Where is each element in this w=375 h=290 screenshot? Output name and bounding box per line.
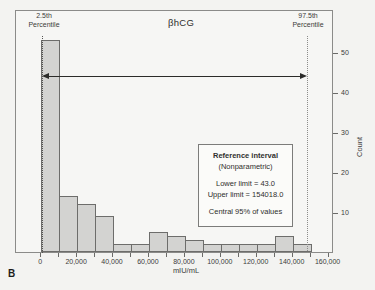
y-tick-label: 20 <box>341 169 363 176</box>
y-axis-label: Count <box>355 137 364 157</box>
x-tick <box>40 253 41 257</box>
upper-percentile-label-line1: 97.5th <box>276 11 340 20</box>
x-tick <box>220 253 221 257</box>
x-tick <box>256 253 257 257</box>
histogram-bar <box>95 216 114 252</box>
y-tick <box>333 93 338 94</box>
histogram-bar <box>59 196 78 252</box>
figure-label: B <box>8 268 15 279</box>
arrow-shaft <box>47 76 302 77</box>
histogram-bar <box>167 236 186 252</box>
histogram-bar <box>203 244 222 252</box>
x-tick <box>112 253 113 257</box>
x-minor-tick <box>274 253 275 257</box>
x-tick <box>328 253 329 257</box>
y-tick <box>333 213 338 214</box>
reference-interval-box: Reference interval (Nonparametric) Lower… <box>198 144 293 227</box>
histogram-bar <box>293 244 312 252</box>
x-minor-tick <box>130 253 131 257</box>
histogram-bar <box>275 236 294 252</box>
reference-box-note: Central 95% of values <box>199 206 292 217</box>
y-tick <box>333 133 338 134</box>
x-tick-label: 160,000 <box>306 258 350 265</box>
x-minor-tick <box>58 253 59 257</box>
x-tick <box>148 253 149 257</box>
x-minor-tick <box>202 253 203 257</box>
y-tick-label: 50 <box>341 49 363 56</box>
histogram-bar <box>221 244 240 252</box>
histogram-bar <box>131 244 150 252</box>
x-axis-label: mIU/mL <box>146 266 226 275</box>
chart-title: βhCG <box>136 17 226 28</box>
histogram-bar <box>77 204 96 252</box>
y-tick-label: 30 <box>341 129 363 136</box>
central-range-arrow <box>42 73 307 80</box>
y-tick <box>333 173 338 174</box>
x-tick <box>76 253 77 257</box>
lower-percentile-label-line1: 2.5th <box>12 11 76 20</box>
x-tick <box>184 253 185 257</box>
x-minor-tick <box>166 253 167 257</box>
x-minor-tick <box>238 253 239 257</box>
y-tick <box>333 53 338 54</box>
reference-box-upper-limit: Upper limit = 154018.0 <box>199 189 292 200</box>
arrowhead-right-icon <box>300 73 307 79</box>
upper-percentile-line <box>307 36 308 253</box>
reference-box-subtitle: (Nonparametric) <box>199 161 292 172</box>
x-minor-tick <box>310 253 311 257</box>
histogram-bar <box>41 40 60 252</box>
lower-percentile-label-line2: Percentile <box>12 20 76 29</box>
figure-panel: 2.5th Percentile 97.5th Percentile βhCG … <box>0 0 375 290</box>
lower-percentile-line <box>42 36 43 253</box>
upper-percentile-label-line2: Percentile <box>276 20 340 29</box>
upper-percentile-label: 97.5th Percentile <box>276 11 340 29</box>
histogram-bar <box>149 232 168 252</box>
y-tick-label: 40 <box>341 89 363 96</box>
histogram-bar <box>185 240 204 252</box>
x-minor-tick <box>94 253 95 257</box>
reference-box-title: Reference interval <box>199 150 292 161</box>
histogram-bar <box>257 244 276 252</box>
x-tick <box>292 253 293 257</box>
reference-box-lower-limit: Lower limit = 43.0 <box>199 178 292 189</box>
lower-percentile-label: 2.5th Percentile <box>12 11 76 29</box>
histogram-bar <box>113 244 132 252</box>
y-tick-label: 10 <box>341 209 363 216</box>
histogram-bar <box>239 244 258 252</box>
